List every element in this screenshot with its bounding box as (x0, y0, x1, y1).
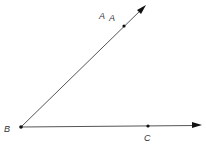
ray-ba (21, 5, 146, 127)
point-b (19, 125, 23, 129)
label-b: B (4, 124, 10, 134)
label-a-duplicate: A (98, 11, 105, 21)
label-c: C (144, 133, 151, 143)
point-a (122, 24, 125, 27)
ray-bc (21, 122, 202, 128)
point-c (146, 124, 149, 127)
angle-diagram: A A B C (0, 0, 206, 146)
label-a: A (108, 13, 115, 23)
arrowhead-icon (192, 122, 202, 128)
